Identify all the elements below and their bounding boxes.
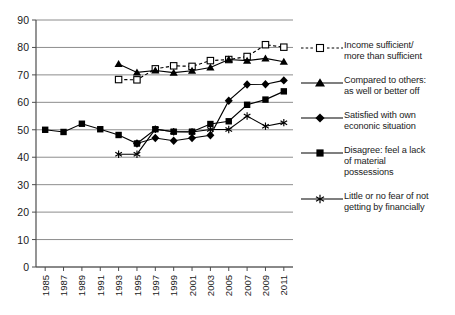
- y-axis-tick-label: 10: [17, 234, 29, 246]
- data-point: [151, 134, 159, 142]
- x-axis-tick-label: 2005: [223, 275, 234, 296]
- y-axis-tick-label: 80: [17, 41, 29, 53]
- y-axis-tick-label: 0: [23, 261, 29, 273]
- legend-item-satisfied-own-situation: Satisfied with ownecononic situation: [300, 110, 452, 132]
- series-line: [119, 58, 284, 72]
- data-point: [281, 44, 287, 50]
- legend-item-disagree-lack-material: Disagree: feel a lackof materialpossessi…: [300, 145, 452, 178]
- legend-label: Little or no fear of notgetting by finan…: [344, 191, 428, 213]
- legend-label: Satisfied with ownecononic situation: [344, 110, 416, 132]
- y-axis-tick-label: 70: [17, 69, 29, 81]
- legend-item-little-no-fear: Little or no fear of notgetting by finan…: [300, 191, 452, 213]
- legend-key-filled-square-solid: [300, 146, 344, 160]
- legend-label: Disagree: feel a lackof materialpossessi…: [344, 145, 425, 178]
- data-point: [42, 127, 48, 133]
- data-point: [206, 64, 214, 71]
- legend-label: Income sufficient/more than sufficient: [344, 40, 422, 62]
- x-axis-tick-label: 2001: [187, 275, 198, 296]
- data-point: [244, 102, 250, 108]
- legend-key-open-square-dashed: [300, 41, 344, 55]
- data-point: [115, 60, 123, 67]
- x-axis-tick-label: 1991: [95, 275, 106, 296]
- legend-key-filled-diamond-solid: [300, 111, 344, 125]
- data-point: [261, 80, 269, 88]
- data-point: [170, 63, 176, 69]
- x-axis-tick-label: 1997: [150, 275, 161, 296]
- data-point: [207, 57, 213, 63]
- data-point: [262, 96, 268, 102]
- series-2: [133, 76, 288, 148]
- x-axis-tick-label: 2009: [260, 275, 271, 296]
- series-line: [119, 116, 284, 154]
- x-axis-tick-label: 1985: [40, 275, 51, 296]
- legend-label: Compared to others:as well or better off: [344, 75, 426, 97]
- legend-item-income-sufficient: Income sufficient/more than sufficient: [300, 40, 452, 62]
- chart-legend: Income sufficient/more than sufficient C…: [300, 40, 452, 226]
- data-point: [280, 76, 288, 84]
- data-point: [226, 118, 232, 124]
- x-axis-tick-label: 2007: [242, 275, 253, 296]
- data-point: [79, 121, 85, 127]
- data-point: [134, 140, 140, 146]
- chart-figure: 0102030405060708090198519871989199119931…: [0, 0, 455, 315]
- x-axis-tick-label: 1989: [76, 275, 87, 296]
- x-axis-tick-label: 2011: [278, 275, 289, 295]
- legend-item-compared-to-others: Compared to others:as well or better off: [300, 75, 452, 97]
- y-axis-tick-label: 30: [17, 179, 29, 191]
- x-axis-tick-label: 1987: [58, 275, 69, 296]
- data-point: [97, 126, 103, 132]
- data-point: [262, 42, 268, 48]
- series-line: [45, 91, 284, 143]
- y-axis-tick-label: 50: [17, 124, 29, 136]
- data-point: [281, 88, 287, 94]
- y-axis-tick-label: 20: [17, 206, 29, 218]
- data-point: [115, 76, 121, 82]
- data-point: [170, 137, 178, 145]
- data-point: [261, 55, 269, 62]
- x-axis-tick-label: 1999: [168, 275, 179, 296]
- x-axis-tick-label: 1995: [132, 275, 143, 296]
- series-1: [115, 55, 288, 76]
- series-4: [115, 112, 287, 158]
- y-axis-tick-label: 90: [17, 14, 29, 26]
- y-axis-tick-label: 40: [17, 151, 29, 163]
- legend-key-star-solid: [300, 192, 344, 206]
- data-point: [134, 77, 140, 83]
- legend-key-filled-triangle-solid: [300, 76, 344, 90]
- data-point: [60, 129, 66, 135]
- data-point: [115, 132, 121, 138]
- x-axis-tick-label: 1993: [113, 275, 124, 296]
- y-axis-tick-label: 60: [17, 96, 29, 108]
- x-axis-tick-label: 2003: [205, 275, 216, 296]
- data-point: [244, 112, 251, 119]
